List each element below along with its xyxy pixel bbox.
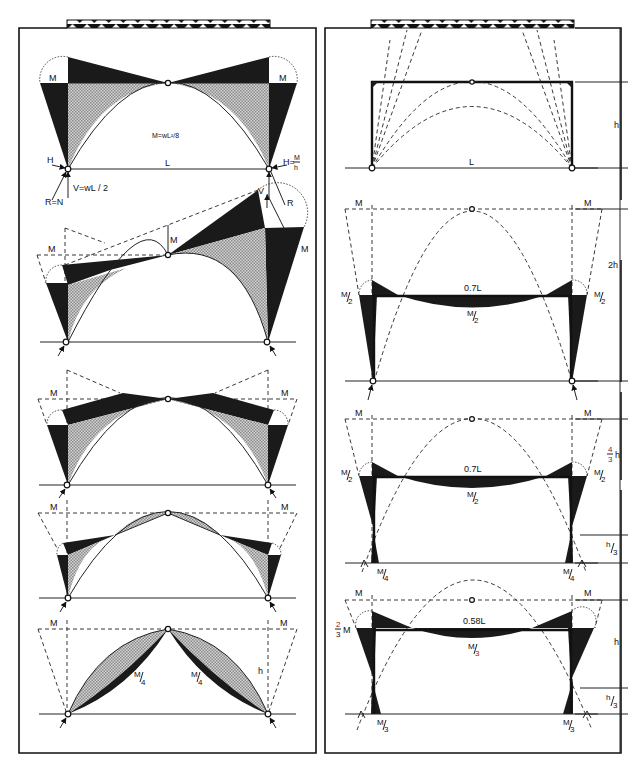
label-moment-left: M (49, 73, 57, 83)
label-moment-left: M (48, 244, 56, 254)
diagram-portal-frame-thrust-lines: L h (345, 30, 619, 171)
label-half-left-num: M (341, 468, 348, 477)
label-base-left-num: M (377, 567, 384, 576)
left-panel: M M M=wL²/8 L H H= M h V=wL / 2 R=N (19, 20, 316, 753)
label-quarter-right-den: 4 (198, 678, 203, 687)
label-two-thirds-den: 3 (336, 630, 341, 639)
label-beam-moment-den: 2 (474, 497, 479, 506)
label-moment-right: M (584, 588, 592, 598)
diagram-asymmetric-load-arch: M M M V R (37, 183, 309, 356)
label-base-right-den: 3 (570, 725, 575, 734)
label-moment-left: M (355, 408, 363, 418)
label-h-left: H (47, 155, 54, 165)
label-beam-moment-den: 2 (474, 316, 479, 325)
label-base-left-den: 4 (384, 574, 389, 583)
label-height-frac-num: 4 (608, 445, 613, 454)
label-quarter-left-num: M (134, 670, 141, 679)
label-quarter-right-num: M (191, 670, 198, 679)
right-panel: L h M M M (325, 20, 628, 753)
label-base-right-num: M (563, 718, 570, 727)
label-vertical-reaction: V=wL / 2 (73, 183, 108, 193)
diagram-arch-case-5-quarter-moments: M M M 4 M 4 h (38, 618, 297, 728)
label-moment-right: M (280, 618, 288, 628)
label-low-height-den: 3 (613, 701, 618, 710)
diagram-three-hinged-arch-basic: M M M=wL²/8 L H H= M h V=wL / 2 R=N (40, 56, 300, 207)
label-beam-length: 0.7L (464, 464, 482, 474)
label-beam-length: 0.7L (464, 283, 482, 293)
label-span: L (165, 158, 170, 168)
label-base-right-den: 4 (570, 574, 575, 583)
label-moment-right: M (279, 73, 287, 83)
label-span: L (469, 157, 474, 167)
label-height-2h: 2h (608, 260, 618, 270)
label-vertical: V (258, 186, 264, 196)
label-base-left-den: 3 (384, 725, 389, 734)
label-resultant: R (287, 198, 294, 208)
label-height: h (258, 666, 263, 676)
label-resultant: R=N (45, 197, 63, 207)
label-moment-right: M (584, 198, 592, 208)
label-moment-mid: M (170, 235, 178, 245)
label-moment-left: M (355, 588, 363, 598)
label-half-right-den: 2 (601, 297, 606, 306)
label-half-left-num: M (341, 290, 348, 299)
diagram-arch-case-3: M M (38, 370, 297, 498)
label-h-right-num: M (294, 154, 300, 161)
diagram-portal-frame-medium: M M M 2 M 2 0.7L M 2 M 4 M 4 4 3 h h 3 (341, 408, 620, 583)
label-low-height-num: h (606, 693, 610, 702)
label-beam-moment-den: 3 (475, 649, 480, 658)
structural-diagram-figure: M M M=wL²/8 L H H= M h V=wL / 2 R=N (0, 0, 643, 771)
label-height: h (614, 120, 619, 130)
diagram-arch-case-4: M M (38, 500, 297, 612)
label-moment-formula: M=wL²/8 (152, 132, 179, 139)
label-moment-right: M (281, 502, 289, 512)
diagram-portal-frame-tall: M M M 2 M 2 0.7L M 2 2h (341, 198, 618, 400)
label-half-left-den: 2 (348, 475, 353, 484)
label-two-thirds-num: 2 (336, 620, 341, 629)
label-beam-moment-num: M (467, 309, 474, 318)
label-half-right-num: M (594, 468, 601, 477)
label-low-height-num: h (606, 540, 610, 549)
label-height-frac-var: h (615, 450, 620, 460)
label-half-left-den: 2 (348, 297, 353, 306)
label-two-thirds-var: M (343, 625, 351, 635)
label-moment-left: M (50, 502, 58, 512)
uniform-load-strip (67, 20, 270, 28)
label-beam-length: 0.58L (463, 616, 486, 626)
label-half-right-num: M (594, 290, 601, 299)
label-quarter-left-den: 4 (141, 678, 146, 687)
label-base-left-num: M (377, 718, 384, 727)
label-moment-left: M (50, 388, 58, 398)
label-height-frac-den: 3 (608, 455, 613, 464)
diagram-portal-frame-short: M M 2 3 M 0.58L M 3 M 3 M 3 h h 3 (335, 580, 619, 734)
label-moment-right: M (281, 388, 289, 398)
label-beam-moment-num: M (468, 642, 475, 651)
label-height: h (614, 637, 619, 647)
label-h-right-den: h (294, 164, 298, 171)
label-moment-right: M (584, 408, 592, 418)
label-beam-moment-num: M (467, 490, 474, 499)
label-base-right-num: M (563, 567, 570, 576)
label-half-right-den: 2 (601, 475, 606, 484)
label-moment-left: M (355, 198, 363, 208)
label-low-height-den: 3 (613, 548, 618, 557)
label-moment-left: M (50, 618, 58, 628)
uniform-load-strip (371, 20, 574, 28)
label-moment-right: M (301, 244, 309, 254)
